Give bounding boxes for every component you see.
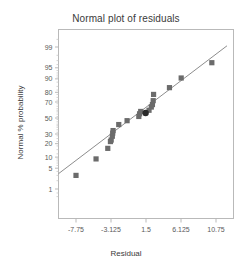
data-point — [179, 75, 184, 80]
data-point — [167, 85, 172, 90]
y-tick-label: 70 — [45, 99, 53, 106]
x-tick-label: 10.75 — [207, 226, 225, 233]
y-tick-label: 99 — [45, 44, 53, 51]
x-tick-label: -7.75 — [68, 226, 84, 233]
data-point — [151, 98, 156, 103]
x-tick-label: 6.125 — [172, 226, 190, 233]
plot-canvas: 15102030507080909599 -7.75-3.1251.56.125… — [0, 0, 252, 270]
x-tick-label: 1.5 — [141, 226, 151, 233]
y-axis-ticks: 15102030507080909599 — [45, 44, 59, 193]
data-point — [105, 146, 110, 151]
y-tick-label: 50 — [45, 115, 53, 122]
plot-frame — [59, 30, 234, 219]
y-tick-label: 95 — [45, 64, 53, 71]
y-tick-label: 1 — [49, 186, 53, 193]
data-point — [73, 173, 78, 178]
normal-probability-plot-figure: Normal plot of residuals Normal % probab… — [0, 0, 252, 270]
data-point — [116, 122, 121, 127]
plot-frame-rect — [59, 30, 234, 219]
x-tick-label: -3.125 — [101, 226, 121, 233]
data-point — [110, 128, 115, 133]
data-point — [93, 156, 98, 161]
y-tick-label: 30 — [45, 131, 53, 138]
data-point — [124, 118, 129, 123]
data-point — [209, 60, 214, 65]
data-point-highlight — [142, 110, 148, 116]
x-axis-ticks: -7.75-3.1251.56.12510.75 — [68, 219, 225, 233]
y-tick-label: 20 — [45, 140, 53, 147]
y-tick-label: 5 — [49, 165, 53, 172]
y-tick-label: 90 — [45, 75, 53, 82]
y-tick-label: 10 — [45, 154, 53, 161]
y-tick-label: 80 — [45, 89, 53, 96]
data-point — [151, 92, 156, 97]
